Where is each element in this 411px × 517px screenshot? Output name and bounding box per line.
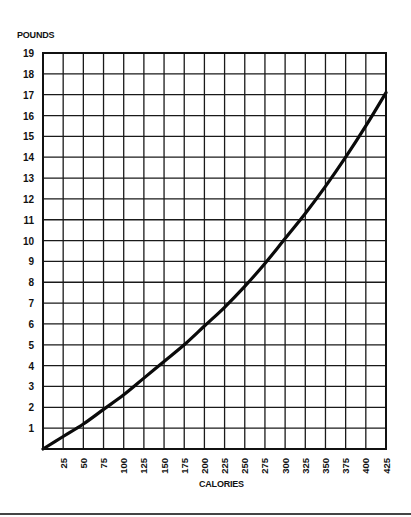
y-tick-label: 3 [28,381,34,392]
plot-frame [43,53,386,449]
y-axis-title: POUNDS [17,30,55,40]
x-axis-title: CALORIES [199,479,244,489]
x-tick-label: 250 [239,458,250,474]
y-tick-label: 10 [23,236,35,247]
y-tick-label: 2 [28,402,34,413]
y-tick-label: 19 [23,48,35,59]
pounds-vs-calories-chart: POUNDS 12345678910111213141516171819 255… [0,0,411,517]
x-tick-label: 100 [118,458,129,474]
y-tick-label: 13 [23,173,35,184]
y-axis-ticks: 12345678910111213141516171819 [23,48,35,434]
x-tick-label: 225 [219,457,230,474]
y-tick-label: 12 [23,194,35,205]
y-tick-label: 18 [23,69,35,80]
y-tick-label: 15 [23,131,35,142]
x-tick-label: 400 [360,458,371,474]
x-tick-label: 75 [98,457,109,468]
x-tick-label: 25 [58,457,69,468]
x-tick-label: 200 [199,458,210,474]
y-tick-label: 14 [23,152,35,163]
x-tick-label: 125 [138,457,149,474]
y-tick-label: 9 [28,256,34,267]
x-tick-label: 150 [159,458,170,474]
x-tick-label: 425 [381,457,392,474]
x-tick-label: 350 [320,458,331,474]
y-tick-label: 7 [28,298,34,309]
y-tick-label: 6 [28,319,34,330]
data-line [43,93,386,449]
page-bottom-rule [0,513,411,515]
x-tick-label: 325 [300,457,311,474]
y-tick-label: 8 [28,277,34,288]
y-tick-label: 5 [28,340,34,351]
x-tick-label: 300 [280,458,291,474]
y-tick-label: 4 [28,361,34,372]
x-axis-ticks: 2550751001251501752002252502753003253503… [58,457,392,474]
y-tick-label: 17 [23,90,35,101]
x-tick-label: 275 [259,457,270,474]
x-tick-label: 375 [340,457,351,474]
x-tick-label: 175 [179,457,190,474]
grid-lines [43,53,386,449]
y-tick-label: 16 [23,111,35,122]
x-tick-label: 50 [78,458,89,469]
y-tick-label: 11 [23,215,34,226]
y-tick-label: 1 [28,423,34,434]
